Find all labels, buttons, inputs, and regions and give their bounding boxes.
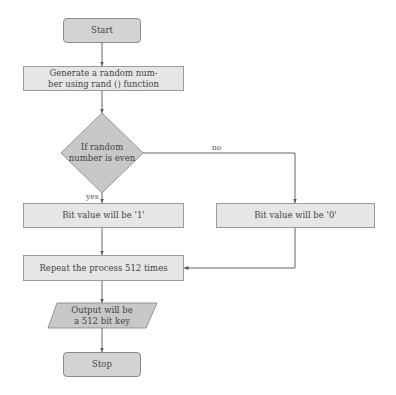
decision-node: If random number is even (61, 138, 143, 168)
start-label: Start (91, 25, 113, 36)
repeat-node: Repeat the process 512 times (23, 255, 184, 281)
generate-node: Generate a random num- ber using rand ()… (23, 66, 184, 91)
bit0-node: Bit value will be '0' (216, 203, 375, 228)
start-node: Start (63, 18, 141, 43)
bit1-label: Bit value will be '1' (62, 210, 144, 221)
output-label-line1: Output will be (71, 305, 133, 316)
edge-label-no: no (212, 143, 221, 152)
stop-node: Stop (63, 352, 141, 377)
bit0-label: Bit value will be '0' (254, 210, 336, 221)
decision-label-line2: number is even (69, 153, 135, 164)
flowchart-edges (0, 0, 396, 395)
decision-label-line1: If random (81, 142, 123, 153)
bit1-node: Bit value will be '1' (23, 203, 184, 228)
output-label-line2: a 512 bit key (74, 316, 130, 327)
output-node: Output will be a 512 bit key (52, 303, 152, 328)
edge-label-yes: yes (86, 192, 99, 201)
repeat-label: Repeat the process 512 times (39, 263, 167, 274)
stop-label: Stop (92, 359, 112, 370)
generate-label-line1: Generate a random num- (49, 68, 157, 79)
generate-label-line2: ber using rand () function (48, 79, 159, 90)
